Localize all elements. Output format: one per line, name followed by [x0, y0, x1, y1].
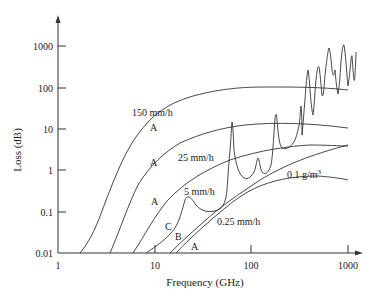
x-tick-label: 1000	[338, 260, 358, 271]
marker-b: B	[175, 231, 182, 242]
y-axis-title: Loss (dB)	[11, 128, 24, 172]
y-tick-label: 1000	[33, 41, 53, 52]
y-axis-arrow-icon	[56, 15, 61, 23]
label-0.1gm3: 0.1 g/m3	[287, 168, 322, 180]
x-tick-labels: 1 10 100 1000	[56, 260, 359, 271]
axes	[56, 15, 364, 256]
curve-25mmh	[110, 123, 348, 253]
label-0.25mmh: 0.25 mm/h	[217, 216, 260, 227]
marker-a-5: A	[151, 196, 159, 207]
y-tick-label: 1	[48, 165, 53, 176]
y-tick-label: 0.01	[36, 248, 54, 259]
curve-labels: 150 mm/h A 25 mm/h A 5 mm/h A 0.1 g/m3 0…	[132, 107, 322, 252]
x-axis-title: Frequency (GHz)	[166, 276, 244, 289]
y-tick-label: 10	[43, 124, 53, 135]
marker-a-25: A	[150, 157, 158, 168]
label-150mmh: 150 mm/h	[132, 107, 173, 118]
x-axis-arrow-icon	[355, 251, 363, 256]
curve-5mmh	[133, 145, 348, 253]
label-5mmh: 5 mm/h	[184, 186, 215, 197]
label-25mmh: 25 mm/h	[178, 152, 214, 163]
x-tick-label: 10	[150, 260, 160, 271]
loss-vs-frequency-chart: 1000 100 10 1 0.1 0.01 1 10 100 1000 Fre…	[0, 0, 380, 301]
marker-c: C	[165, 221, 172, 232]
marker-a-150: A	[150, 122, 158, 133]
y-tick-labels: 1000 100 10 1 0.1 0.01	[33, 41, 53, 259]
y-tick-label: 0.1	[41, 207, 54, 218]
y-tick-label: 100	[38, 83, 53, 94]
x-tick-label: 1	[56, 260, 61, 271]
marker-a-025: A	[191, 241, 199, 252]
x-tick-label: 100	[244, 260, 259, 271]
